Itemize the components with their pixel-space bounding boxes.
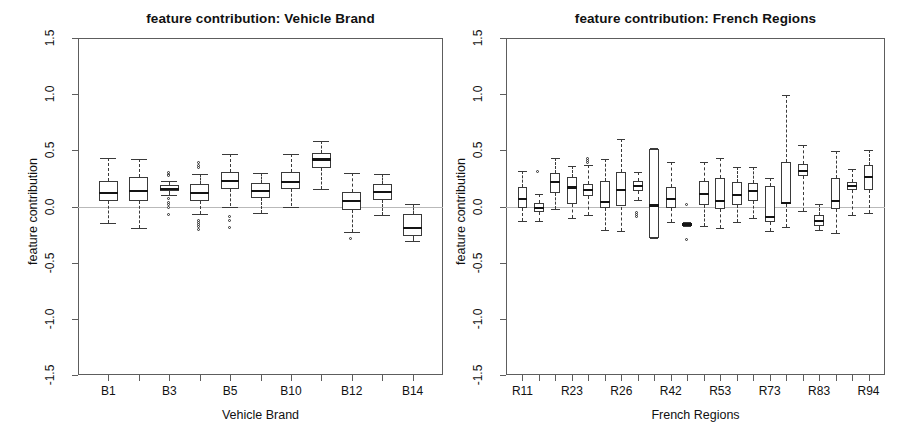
zero-reference-line <box>506 207 885 208</box>
whisker-cap-lower <box>161 195 177 196</box>
whisker-lower <box>291 189 292 207</box>
whisker-cap-upper <box>765 178 773 179</box>
whisker-lower <box>352 210 353 232</box>
x-axis-tick-label: B12 <box>322 384 382 398</box>
whisker-upper <box>720 158 721 178</box>
whisker-cap-lower <box>634 200 642 201</box>
whisker-cap-lower <box>617 231 625 232</box>
whisker-lower <box>572 204 573 217</box>
whisker-cap-upper <box>782 95 790 96</box>
y-axis-tick-label: 1.5 <box>42 18 58 58</box>
whisker-upper <box>803 145 804 164</box>
whisker-cap-lower <box>568 218 576 219</box>
x-axis-tick <box>786 375 787 381</box>
x-axis-tick <box>621 375 622 381</box>
median-line <box>534 207 544 209</box>
x-axis-tick <box>605 375 606 381</box>
whisker-upper <box>819 204 820 215</box>
whisker-upper <box>539 194 540 203</box>
box-iqr <box>99 181 118 201</box>
whisker-cap-upper <box>601 159 609 160</box>
y-axis-tick-label: 0.0 <box>470 187 486 227</box>
whisker-cap-upper <box>518 171 526 172</box>
whisker-cap-lower <box>667 222 675 223</box>
whisker-cap-lower <box>584 215 592 216</box>
whisker-cap-lower <box>518 221 526 222</box>
x-axis-tick <box>803 375 804 381</box>
y-axis-tick <box>500 94 506 95</box>
median-line <box>550 181 560 183</box>
whisker-cap-upper <box>667 162 675 163</box>
box-iqr <box>781 162 791 205</box>
whisker-cap-lower <box>344 232 360 233</box>
whisker-upper <box>737 167 738 182</box>
whisker-cap-lower <box>222 207 238 208</box>
y-axis-tick-label: -0.5 <box>470 243 486 283</box>
x-axis-tick <box>770 375 771 381</box>
y-axis-tick-label: 0.0 <box>42 187 58 227</box>
whisker-upper <box>704 162 705 181</box>
y-axis-tick <box>72 319 78 320</box>
whisker-cap-lower <box>831 233 839 234</box>
median-line <box>798 170 808 172</box>
whisker-upper <box>852 169 853 181</box>
whisker-lower <box>753 201 754 218</box>
whisker-cap-upper <box>313 141 329 142</box>
median-line <box>99 192 118 194</box>
median-line <box>251 190 270 192</box>
x-axis-tick <box>261 375 262 381</box>
whisker-lower <box>555 193 556 209</box>
x-axis-tick <box>869 375 870 381</box>
y-axis-tick <box>72 375 78 376</box>
whisker-cap-upper <box>864 150 872 151</box>
whisker-cap-lower <box>749 218 757 219</box>
whisker-lower <box>836 209 837 234</box>
whisker-cap-upper <box>344 173 360 174</box>
whisker-upper <box>605 159 606 180</box>
whisker-lower <box>108 201 109 223</box>
x-axis-tick <box>413 375 414 381</box>
x-axis-tick <box>572 375 573 381</box>
box-iqr <box>649 149 659 238</box>
whisker-upper <box>588 165 589 184</box>
whisker-cap-lower <box>733 222 741 223</box>
whisker-cap-lower <box>601 230 609 231</box>
whisker-lower <box>770 222 771 231</box>
panel-title: feature contribution: Vehicle Brand <box>78 11 443 26</box>
whisker-upper <box>200 174 201 184</box>
y-axis-tick-label: 1.0 <box>42 74 58 114</box>
y-axis-tick <box>500 38 506 39</box>
whisker-upper <box>291 154 292 172</box>
x-axis-tick <box>108 375 109 381</box>
x-axis-tick <box>539 375 540 381</box>
whisker-upper <box>382 174 383 184</box>
outlier-point <box>685 238 688 241</box>
whisker-lower <box>720 209 721 228</box>
whisker-upper <box>230 154 231 172</box>
panel-title: feature contribution: French Regions <box>506 11 885 26</box>
median-line <box>583 189 593 191</box>
whisker-cap-lower <box>551 209 559 210</box>
median-line <box>682 223 692 225</box>
x-axis-tick <box>737 375 738 381</box>
whisker-cap-upper <box>749 167 757 168</box>
median-line <box>160 188 179 190</box>
whisker-upper <box>638 172 639 181</box>
y-axis-tick-label: 1.5 <box>470 18 486 58</box>
y-axis-tick <box>500 263 506 264</box>
whisker-upper <box>139 159 140 177</box>
x-axis-tick-label: B10 <box>261 384 321 398</box>
whisker-upper <box>321 141 322 152</box>
box-iqr <box>600 181 610 208</box>
x-axis-tick <box>753 375 754 381</box>
x-axis-tick-label: R94 <box>839 384 899 398</box>
whisker-lower <box>737 205 738 222</box>
outlier-point <box>228 219 231 222</box>
whisker-cap-lower <box>650 238 658 239</box>
whisker-upper <box>869 150 870 165</box>
whisker-cap-lower <box>700 226 708 227</box>
box-iqr <box>403 214 422 235</box>
median-line <box>732 194 742 196</box>
whisker-lower <box>539 212 540 221</box>
whisker-lower <box>869 190 870 214</box>
